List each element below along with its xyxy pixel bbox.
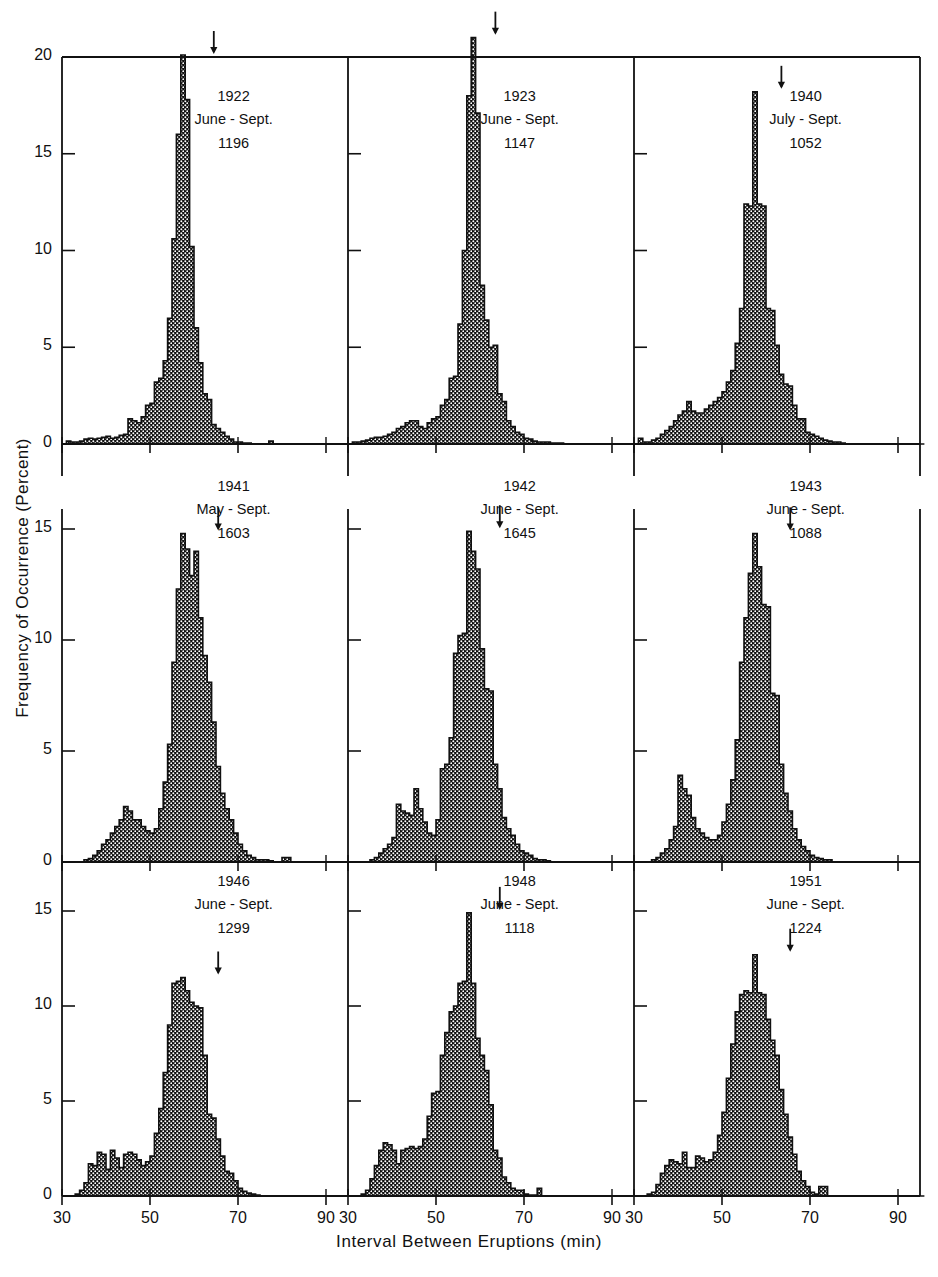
- panel-caption-1923: 1923June - Sept.1147: [450, 85, 590, 155]
- panel-count: 1299: [164, 917, 304, 940]
- x-tick-label: 50: [135, 1209, 165, 1227]
- x-tick-label: 70: [223, 1209, 253, 1227]
- histogram-panel-1946: [62, 894, 348, 1205]
- y-tick-label: 15: [18, 143, 52, 161]
- y-tick-label: 10: [18, 240, 52, 258]
- panel-caption-1942: 1942June - Sept.1645: [450, 475, 590, 545]
- mean-arrow-head: [215, 968, 222, 975]
- panel-period: June - Sept.: [450, 108, 590, 131]
- y-tick-label: 0: [18, 851, 52, 869]
- panel-caption-1941: 1941May - Sept.1603: [164, 475, 304, 545]
- panel-period: June - Sept.: [736, 893, 876, 916]
- panel-period: May - Sept.: [164, 498, 304, 521]
- panel-year: 1941: [164, 475, 304, 498]
- panel-period: June - Sept.: [450, 498, 590, 521]
- histogram-bars: [352, 913, 634, 1196]
- y-tick-label: 0: [18, 433, 52, 451]
- panel-period: June - Sept.: [736, 498, 876, 521]
- histogram-bars: [638, 955, 924, 1196]
- x-tick-label: 30: [333, 1209, 363, 1227]
- panel-year: 1948: [450, 870, 590, 893]
- x-tick-label: 30: [47, 1209, 77, 1227]
- y-tick-label: 5: [18, 740, 52, 758]
- panel-year: 1923: [450, 85, 590, 108]
- x-tick-label: 90: [883, 1209, 913, 1227]
- histogram-bars: [638, 533, 920, 862]
- panel-year: 1940: [736, 85, 876, 108]
- panel-count: 1147: [450, 132, 590, 155]
- y-tick-label: 5: [18, 336, 52, 354]
- histogram-panel-1951: [634, 894, 924, 1205]
- geyser-interval-histogram-figure: Frequency of Occurrence (Percent) Interv…: [0, 0, 938, 1277]
- panel-year: 1951: [736, 870, 876, 893]
- panel-year: 1943: [736, 475, 876, 498]
- panel-caption-1946: 1946June - Sept.1299: [164, 870, 304, 940]
- histogram-panel-1941: [62, 507, 352, 894]
- panel-count: 1118: [450, 917, 590, 940]
- y-tick-label: 0: [18, 1185, 52, 1203]
- panel-year: 1942: [450, 475, 590, 498]
- x-tick-label: 50: [421, 1209, 451, 1227]
- panel-caption-1948: 1948June - Sept.1118: [450, 870, 590, 940]
- x-tick-label: 50: [707, 1209, 737, 1227]
- histogram-panels-svg: [0, 0, 938, 1277]
- histogram-panel-1942: [348, 505, 638, 894]
- mean-arrow-head: [492, 28, 499, 35]
- histogram-panel-1923: [348, 12, 638, 476]
- x-tick-label: 70: [509, 1209, 539, 1227]
- x-axis-label: Interval Between Eruptions (min): [0, 1232, 938, 1252]
- panel-year: 1946: [164, 870, 304, 893]
- panel-count: 1196: [164, 132, 304, 155]
- panel-count: 1645: [450, 522, 590, 545]
- panel-year: 1922: [164, 85, 304, 108]
- panel-count: 1088: [736, 522, 876, 545]
- mean-arrow-head: [787, 945, 794, 952]
- panel-caption-1943: 1943June - Sept.1088: [736, 475, 876, 545]
- y-tick-label: 10: [18, 995, 52, 1013]
- y-tick-label: 15: [18, 900, 52, 918]
- y-tick-label: 5: [18, 1090, 52, 1108]
- histogram-bars: [352, 531, 638, 862]
- panel-count: 1603: [164, 522, 304, 545]
- panel-period: July - Sept.: [736, 108, 876, 131]
- panel-caption-1951: 1951June - Sept.1224: [736, 870, 876, 940]
- y-tick-label: 15: [18, 518, 52, 536]
- y-tick-label: 10: [18, 629, 52, 647]
- panel-period: June - Sept.: [450, 893, 590, 916]
- histogram-bars: [66, 978, 348, 1197]
- panel-count: 1052: [736, 132, 876, 155]
- x-tick-label: 30: [619, 1209, 649, 1227]
- mean-arrow-head: [210, 47, 217, 54]
- panel-count: 1224: [736, 917, 876, 940]
- panel-caption-1940: 1940July - Sept.1052: [736, 85, 876, 155]
- panel-period: June - Sept.: [164, 893, 304, 916]
- y-tick-label: 20: [18, 46, 52, 64]
- histogram-bars: [66, 533, 352, 862]
- panel-period: June - Sept.: [164, 108, 304, 131]
- panel-caption-1922: 1922June - Sept.1196: [164, 85, 304, 155]
- x-tick-label: 70: [795, 1209, 825, 1227]
- y-axis-label: Frequency of Occurrence (Percent): [13, 418, 33, 738]
- histogram-panel-1943: [634, 507, 920, 894]
